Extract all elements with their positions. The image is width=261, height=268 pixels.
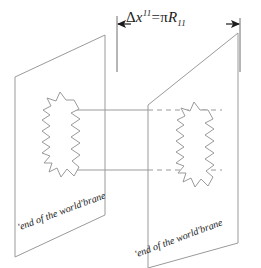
x-variable: x — [136, 9, 143, 25]
equals-symbol: = — [151, 9, 160, 25]
pi-symbol: π — [160, 9, 168, 25]
brane-diagram: Δx11=πR11 'end of the world'brane 'end o… — [0, 0, 261, 268]
brane-diagram-canvas — [0, 0, 261, 268]
radius-variable: R — [168, 9, 177, 25]
delta-symbol: Δ — [126, 9, 136, 25]
dimension-label: Δx11=πR11 — [126, 8, 186, 28]
radius-subscript: 11 — [177, 18, 186, 28]
